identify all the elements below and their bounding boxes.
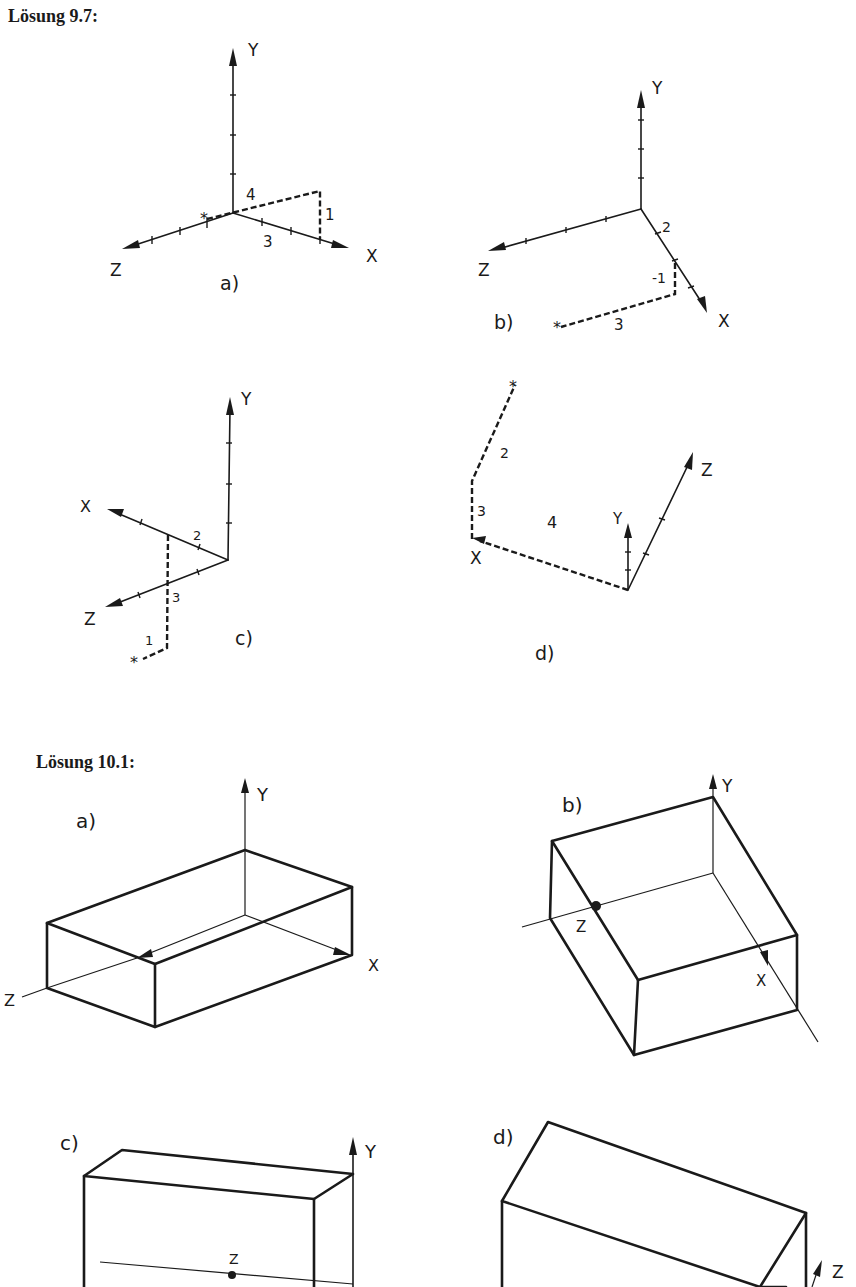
point-marker: * — [553, 318, 561, 337]
figure-label: c) — [60, 1131, 79, 1155]
z-axis-extension — [22, 988, 47, 997]
z-axis-arrow-icon — [684, 452, 693, 470]
x-axis-label: X — [80, 497, 91, 516]
z-axis-label: Z — [229, 1251, 239, 1267]
z-axis-arrow-icon — [228, 1271, 236, 1279]
x-axis-label: X — [756, 972, 766, 990]
z-axis-label: Z — [4, 991, 15, 1010]
y-axis-label: Y — [364, 1141, 377, 1162]
y-axis-label: Y — [247, 40, 259, 60]
z-axis-arrow-icon — [137, 949, 153, 958]
box — [550, 797, 797, 1055]
figure-9-7-c: * 2 3 1 Y X Z c) — [80, 389, 253, 672]
x-axis-label: X — [366, 246, 378, 266]
figure-label: a) — [76, 809, 96, 833]
figure-label: a) — [220, 272, 239, 294]
figure-label: b) — [562, 793, 583, 817]
value-label: 1 — [325, 206, 335, 224]
value-label: 2 — [662, 219, 671, 235]
z-axis — [628, 463, 689, 590]
value-label: 3 — [477, 503, 486, 519]
figure-9-7-b: * 2 -1 3 Y Z X b) — [478, 78, 730, 337]
figure-label: d) — [493, 1125, 514, 1149]
figure-10-1-d: Z d) — [493, 1122, 844, 1287]
value-label: 2 — [500, 445, 509, 461]
x-axis-arrow-icon — [472, 536, 486, 544]
x-axis-label: X — [718, 311, 730, 331]
z-axis-label: Z — [701, 460, 713, 480]
x-axis — [117, 513, 228, 560]
y-axis-label: Y — [240, 389, 252, 409]
x-axis — [245, 915, 342, 952]
x-axis-arrow-icon — [697, 296, 707, 313]
x-axis-arrow-icon — [760, 950, 768, 966]
figure-10-1-a: X Y Z a) — [4, 778, 379, 1027]
x-axis-arrow-icon — [331, 240, 349, 248]
point-marker: * — [509, 377, 517, 396]
figure-10-1-c: Y Z c) — [60, 1131, 377, 1287]
figure-9-7-a: * 4 3 1 Y Z X a) — [110, 40, 378, 294]
z-axis-arrow-icon — [488, 242, 506, 251]
figure-label: d) — [535, 642, 554, 664]
x-axis-arrow-icon — [333, 947, 351, 955]
y-axis-label: Y — [651, 78, 663, 98]
y-axis-label: Y — [612, 510, 623, 528]
coordinate-path-x — [480, 541, 628, 590]
value-label: 3 — [172, 590, 180, 605]
z-axis-label: Z — [84, 609, 96, 629]
y-axis-label: Y — [721, 776, 733, 796]
x-axis-label: X — [470, 548, 482, 568]
value-label: 4 — [547, 513, 557, 532]
y-axis-arrow-icon — [637, 90, 645, 108]
value-label: 3 — [614, 316, 624, 334]
z-axis-label: Z — [576, 918, 586, 936]
y-axis-label: Y — [256, 784, 269, 805]
coordinate-path — [207, 191, 320, 239]
x-axis-arrow-icon — [107, 509, 124, 517]
y-axis-arrow-icon — [241, 778, 249, 793]
value-label: -1 — [652, 270, 666, 286]
z-axis — [498, 209, 641, 249]
y-axis-arrow-icon — [349, 1137, 357, 1155]
z-axis-label: Z — [832, 1262, 844, 1282]
value-label: 4 — [246, 186, 256, 204]
figure-label: c) — [235, 627, 253, 649]
point-marker: * — [130, 653, 138, 672]
figure-10-1-b: Y Z X b) — [522, 774, 818, 1055]
y-axis-arrow-icon — [709, 774, 717, 789]
z-axis-label: Z — [110, 260, 122, 280]
y-axis-arrow-icon — [226, 397, 234, 415]
z-axis-arrow-icon — [122, 240, 140, 249]
figure-9-7-d: * 4 3 2 Y Z X d) — [470, 377, 713, 664]
z-axis-label: Z — [478, 260, 490, 280]
x-axis — [233, 213, 338, 245]
value-label: 2 — [193, 528, 201, 543]
value-label: 1 — [145, 633, 153, 648]
box — [502, 1122, 806, 1287]
value-label: 3 — [263, 233, 273, 251]
y-axis-arrow-icon — [229, 48, 237, 66]
x-axis-label: X — [368, 956, 379, 975]
figure-label: b) — [494, 311, 513, 333]
z-axis — [132, 213, 233, 246]
z-axis-arrow-icon — [105, 598, 123, 607]
x-axis — [641, 209, 702, 303]
box — [84, 1150, 353, 1287]
point-marker: * — [200, 209, 208, 228]
z-axis-arrow-icon — [813, 1260, 822, 1277]
y-axis-arrow-icon — [624, 523, 632, 538]
